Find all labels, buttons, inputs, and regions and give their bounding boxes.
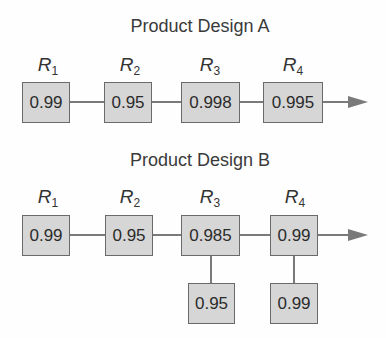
design-a-label-r2: R2 (120, 54, 140, 78)
reliability-diagram: Product Design A R1 R2 R3 R4 0.99 0.95 0… (0, 0, 386, 338)
connector-line (239, 101, 264, 103)
connector-line (239, 234, 271, 236)
design-b-label-r4: R4 (285, 186, 305, 210)
connector-line (70, 234, 106, 236)
output-arrow-icon (348, 229, 368, 241)
design-a-component-r3: 0.998 (181, 82, 240, 123)
design-a-label-r3: R3 (200, 54, 220, 78)
design-b-component-r2: 0.95 (105, 215, 153, 256)
design-b-component-r4: 0.99 (270, 215, 318, 256)
output-line (322, 101, 350, 103)
connector-line (151, 101, 181, 103)
design-b-component-r3: 0.985 (181, 215, 240, 256)
design-b-label-r2: R2 (120, 186, 140, 210)
design-b-backup-r4: 0.99 (270, 283, 318, 324)
design-a-component-r1: 0.99 (22, 82, 70, 123)
design-b-title: Product Design B (130, 150, 270, 171)
output-line (317, 234, 350, 236)
design-a-component-r4: 0.995 (263, 82, 323, 123)
design-b-component-r1: 0.99 (22, 215, 70, 256)
design-b-label-r1: R1 (38, 186, 58, 210)
design-a-label-r4: R4 (283, 54, 303, 78)
design-a-component-r2: 0.95 (104, 82, 152, 123)
design-a-label-r1: R1 (38, 54, 58, 78)
parallel-connector (210, 255, 212, 284)
design-b-label-r3: R3 (200, 186, 220, 210)
parallel-connector (293, 255, 295, 284)
design-a-title: Product Design A (130, 16, 269, 37)
connector-line (70, 101, 104, 103)
output-arrow-icon (348, 96, 368, 108)
connector-line (152, 234, 182, 236)
design-b-backup-r3: 0.95 (188, 283, 235, 324)
